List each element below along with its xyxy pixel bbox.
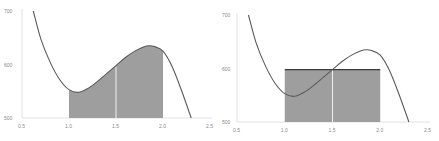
right-chart-midpoint-rectangle: 5006007000.51.01.52.02.5 bbox=[220, 0, 439, 141]
x-tick-label: 0.5 bbox=[18, 123, 25, 129]
y-tick-label: 500 bbox=[4, 115, 13, 121]
x-tick-label: 1.5 bbox=[112, 123, 119, 129]
x-tick-label: 2.0 bbox=[376, 127, 383, 133]
x-tick-label: 2.5 bbox=[424, 127, 431, 133]
y-tick-label: 500 bbox=[222, 119, 231, 125]
x-tick-label: 1.0 bbox=[65, 123, 72, 129]
x-tick-label: 0.5 bbox=[233, 127, 240, 133]
x-tick-label: 1.0 bbox=[281, 127, 288, 133]
left-chart-svg: 5006007000.51.01.52.02.5 bbox=[0, 0, 220, 141]
x-tick-label: 1.5 bbox=[329, 127, 336, 133]
y-tick-label: 700 bbox=[222, 12, 231, 18]
y-tick-label: 600 bbox=[222, 66, 231, 72]
y-tick-label: 700 bbox=[4, 8, 13, 14]
x-tick-label: 2.0 bbox=[159, 123, 166, 129]
left-chart-area-under-curve: 5006007000.51.01.52.02.5 bbox=[0, 0, 220, 141]
x-tick-label: 2.5 bbox=[206, 123, 213, 129]
right-chart-svg: 5006007000.51.01.52.02.5 bbox=[220, 0, 439, 141]
y-tick-label: 600 bbox=[4, 62, 13, 68]
